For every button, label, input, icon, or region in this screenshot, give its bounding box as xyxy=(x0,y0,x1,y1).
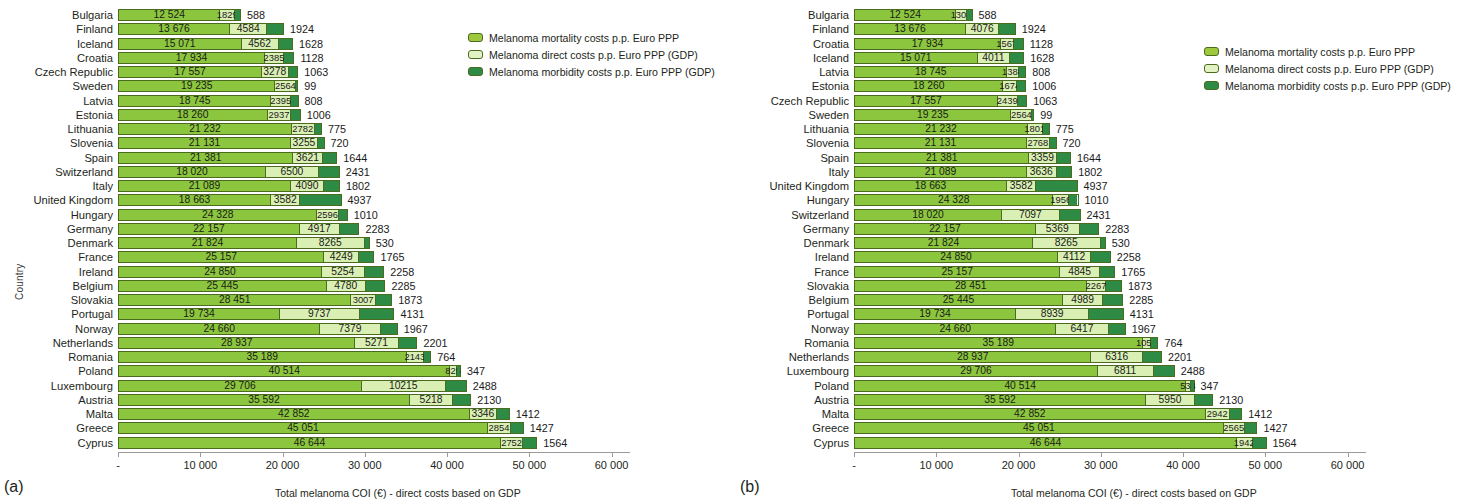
bar-segment-morbidity xyxy=(323,153,336,163)
bar-segment-mortality: 21 131 xyxy=(119,138,291,148)
x-axis-tick-label: 30 000 xyxy=(348,459,382,471)
segment-value-label: 40 514 xyxy=(268,366,300,376)
bar-segment-direct: 2395 xyxy=(271,96,290,106)
morbidity-value-label: 1427 xyxy=(1263,421,1287,435)
x-axis-tick-label: 30 000 xyxy=(1084,459,1118,471)
bar-segment-mortality: 18 020 xyxy=(119,167,266,177)
bar-segment-direct: 4989 xyxy=(1063,295,1104,305)
legend-b: Melanoma mortality costs p.p. Euro PPPMe… xyxy=(1204,44,1451,95)
x-axis-a: -10 00020 00030 00040 00050 00060 000 xyxy=(118,452,630,453)
x-axis-tick xyxy=(118,453,119,457)
stacked-bar: 25 4454780 xyxy=(118,280,385,292)
morbidity-value-label: 4131 xyxy=(400,307,424,321)
bar-segment-morbidity xyxy=(376,295,391,305)
stacked-bar: 21 0893636 xyxy=(854,166,1072,178)
bar-segment-direct: 6500 xyxy=(266,167,319,177)
segment-value-label: 24 328 xyxy=(938,195,970,205)
bar-segment-mortality: 21 824 xyxy=(855,238,1033,248)
category-label: Portugal xyxy=(71,307,118,321)
morbidity-value-label: 1063 xyxy=(304,65,328,79)
bar-segment-morbidity xyxy=(1143,352,1161,362)
stacked-bar: 24 3282596 xyxy=(118,209,348,221)
stacked-bar: 13 6764076 xyxy=(854,23,1016,35)
bar-row: Bulgaria12 5241308588 xyxy=(854,8,1364,22)
morbidity-value-label: 720 xyxy=(1063,136,1081,150)
bar-segment-morbidity xyxy=(284,53,293,63)
category-label: Croatia xyxy=(77,51,118,65)
bar-segment-mortality: 15 071 xyxy=(119,39,242,49)
chart-panel-a: Country Bulgaria12 5241829588Finland13 6… xyxy=(0,0,735,501)
bar-segment-direct: 2564 xyxy=(1011,110,1032,120)
category-label: Germany xyxy=(67,222,118,236)
bar-segment-direct: 3636 xyxy=(1027,167,1057,177)
bar-segment-mortality: 25 445 xyxy=(855,295,1063,305)
bar-segment-mortality: 19 734 xyxy=(855,309,1016,319)
bar-segment-mortality: 24 328 xyxy=(119,210,317,220)
morbidity-value-label: 1564 xyxy=(543,436,567,450)
segment-value-label: 29 706 xyxy=(224,380,256,390)
category-label: Slovenia xyxy=(806,136,854,150)
category-label: Luxembourg xyxy=(787,364,854,378)
bar-segment-direct: 7097 xyxy=(1002,210,1060,220)
stacked-bar: 24 8504112 xyxy=(854,251,1111,263)
bar-segment-morbidity xyxy=(1043,124,1049,134)
x-axis-tick xyxy=(1265,453,1266,457)
bar-row: Italy21 08936361802 xyxy=(854,165,1364,179)
segment-value-label: 8265 xyxy=(1055,238,1078,248)
x-axis-tick-label: 40 000 xyxy=(430,459,464,471)
category-label: Lithuania xyxy=(68,122,118,136)
x-axis-tick-label: 10 000 xyxy=(919,459,953,471)
bar-segment-mortality: 21 232 xyxy=(119,124,292,134)
bar-segment-morbidity xyxy=(1089,309,1123,319)
bar-segment-direct: 4090 xyxy=(291,181,324,191)
morbidity-value-label: 2130 xyxy=(477,393,501,407)
bar-segment-morbidity xyxy=(1195,395,1212,405)
bar-row: Norway24 66073791967 xyxy=(118,322,628,336)
segment-value-label: 17 934 xyxy=(176,53,208,63)
bar-row: Estonia18 26029371006 xyxy=(118,108,628,122)
bar-segment-morbidity xyxy=(1010,53,1023,63)
segment-value-label: 5369 xyxy=(1046,224,1069,234)
category-label: Belgium xyxy=(73,279,118,293)
segment-value-label: 5218 xyxy=(419,395,442,405)
segment-value-label: 18 663 xyxy=(915,181,947,191)
morbidity-value-label: 2258 xyxy=(1117,250,1141,264)
morbidity-value-label: 1967 xyxy=(404,322,428,336)
segment-value-label: 1956 xyxy=(1050,196,1071,205)
x-axis-tick xyxy=(200,453,201,457)
bar-segment-morbidity xyxy=(1069,195,1077,205)
bar-segment-mortality: 18 020 xyxy=(855,210,1002,220)
bar-row: Belgium25 44549892285 xyxy=(854,293,1364,307)
stacked-bar: 24 6606417 xyxy=(854,323,1126,335)
morbidity-value-label: 808 xyxy=(305,94,323,108)
segment-value-label: 42 852 xyxy=(278,409,310,419)
bar-row: Portugal19 73497374131 xyxy=(118,307,628,321)
segment-value-label: 24 328 xyxy=(202,209,234,219)
bar-segment-mortality: 21 089 xyxy=(855,167,1027,177)
bar-row: Denmark21 8248265530 xyxy=(854,236,1364,250)
segment-value-label: 22 157 xyxy=(929,224,961,234)
bar-row: Austria35 59252182130 xyxy=(118,393,628,407)
segment-value-label: 4584 xyxy=(237,24,260,34)
segment-value-label: 18 020 xyxy=(176,167,208,177)
bar-segment-mortality: 12 524 xyxy=(119,10,220,20)
bar-segment-morbidity xyxy=(1018,96,1027,106)
bar-segment-morbidity xyxy=(360,309,394,319)
bar-segment-mortality: 17 934 xyxy=(855,39,1001,49)
segment-value-label: 2385 xyxy=(264,53,285,62)
segment-value-label: 21 824 xyxy=(192,238,224,248)
bar-segment-morbidity xyxy=(1109,324,1125,334)
bar-segment-mortality: 24 850 xyxy=(119,267,322,277)
bar-segment-direct: 2439 xyxy=(998,96,1018,106)
segment-value-label: 18 260 xyxy=(913,81,945,91)
bar-segment-mortality: 18 745 xyxy=(855,67,1007,77)
bar-segment-morbidity xyxy=(1057,167,1072,177)
category-label: Cyprus xyxy=(814,436,854,450)
stacked-bar: 15 0714562 xyxy=(118,38,293,50)
morbidity-value-label: 2431 xyxy=(1087,208,1111,222)
bar-segment-morbidity xyxy=(424,352,430,362)
segment-value-label: 21 824 xyxy=(928,238,960,248)
morbidity-value-label: 2285 xyxy=(391,279,415,293)
category-label: Romania xyxy=(68,350,118,364)
bar-segment-direct: 1674 xyxy=(1003,81,1017,91)
